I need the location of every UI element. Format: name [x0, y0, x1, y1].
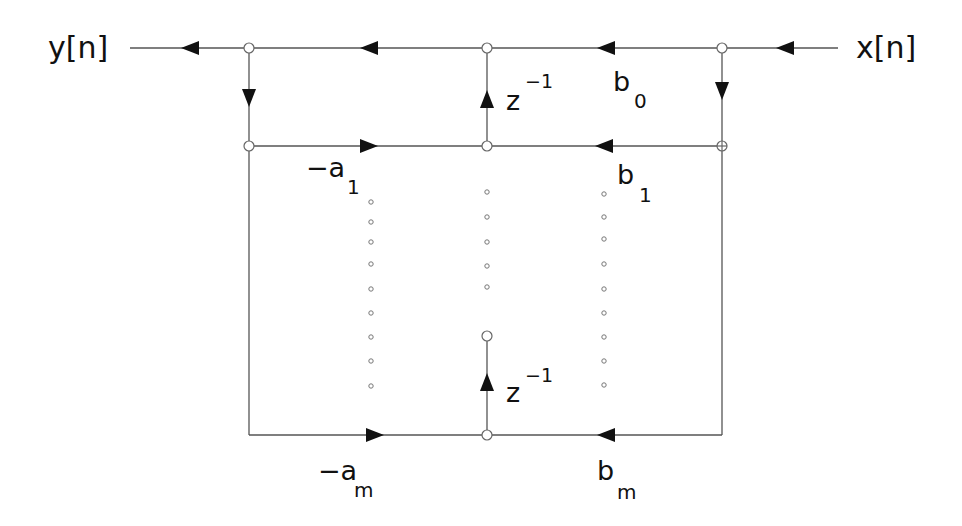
input-label: x[n] — [856, 30, 916, 65]
node-delay-m — [482, 430, 492, 440]
arrow-right-icon — [360, 139, 378, 153]
arrow-left-icon — [597, 41, 615, 55]
node-delay-m-top — [482, 331, 492, 341]
node-top-middle — [482, 43, 492, 53]
coef-b1-label: b — [617, 159, 634, 190]
arrow-down-icon — [242, 89, 256, 107]
node-input — [717, 43, 727, 53]
arrow-right-icon — [366, 428, 384, 442]
coef-a1-label: −a — [306, 152, 345, 183]
node-output — [244, 43, 254, 53]
ellipsis-delay-chain — [485, 190, 489, 289]
node-right-sum — [717, 141, 727, 151]
arrow-up-icon — [480, 90, 494, 108]
delay-m-exponent: −1 — [525, 364, 553, 386]
coef-b1-sub: 1 — [639, 183, 652, 207]
delay-m-label: z — [506, 377, 520, 408]
coef-a1-sub: 1 — [347, 175, 360, 199]
arrow-left-icon — [181, 41, 199, 55]
arrow-down-icon — [715, 82, 729, 100]
arrow-up-icon — [480, 373, 494, 391]
node-delay-1 — [482, 141, 492, 151]
coef-am-label: −a — [318, 455, 357, 486]
arrow-left-icon — [597, 428, 615, 442]
signal-flow-diagram: y[n] x[n] z −1 z −1 b 0 −a 1 b 1 −a m b … — [0, 0, 962, 526]
arrow-left-icon — [360, 41, 378, 55]
delay-1-exponent: −1 — [525, 70, 553, 92]
delay-1-label: z — [506, 85, 520, 116]
ellipsis-feedback-a — [369, 200, 373, 388]
coef-bm-sub: m — [617, 480, 636, 504]
coef-b0-sub: 0 — [634, 89, 647, 113]
arrow-left-icon — [776, 41, 794, 55]
coef-bm-label: b — [597, 455, 614, 486]
arrow-left-icon — [595, 139, 613, 153]
node-left-sum — [244, 141, 254, 151]
coef-b0-label: b — [613, 66, 630, 97]
coef-am-sub: m — [354, 478, 373, 502]
output-label: y[n] — [48, 30, 108, 65]
ellipsis-feedforward-b — [602, 192, 606, 387]
